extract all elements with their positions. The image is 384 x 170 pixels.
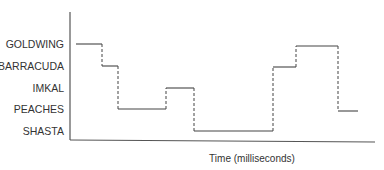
y-label-barracuda: BARRACUDA [0,60,64,72]
y-label-goldwing: GOLDWING [6,38,64,50]
x-axis [70,140,375,142]
y-label-peaches: PEACHES [14,103,64,115]
y-label-imkal: IMKAL [32,82,64,94]
x-axis-label: Time (milliseconds) [209,153,295,164]
step-transitions [102,44,338,131]
step-chart: GOLDWING BARRACUDA IMKAL PEACHES SHASTA … [0,0,384,170]
y-label-shasta: SHASTA [23,125,64,137]
y-axis-labels: GOLDWING BARRACUDA IMKAL PEACHES SHASTA [0,38,64,137]
